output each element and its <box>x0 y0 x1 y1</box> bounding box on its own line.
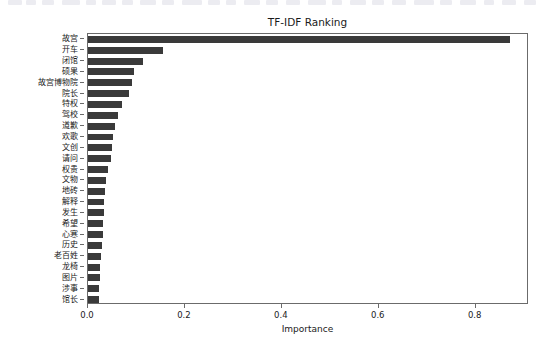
y-tick-mark <box>80 71 84 72</box>
bar <box>88 68 134 75</box>
bar <box>88 90 129 97</box>
y-tick-label: 特权 <box>62 99 78 108</box>
y-tick-label: 历史 <box>62 240 78 249</box>
y-tick-label: 文物 <box>62 175 78 184</box>
y-tick-label: 涉事 <box>62 283 78 292</box>
y-tick-label: 龙椅 <box>62 262 78 271</box>
y-tick-label: 请问 <box>62 153 78 162</box>
y-tick-label: 馆长 <box>62 294 78 303</box>
x-tick-mark <box>87 304 88 308</box>
bar <box>88 264 100 271</box>
y-tick-label: 道歉 <box>62 121 78 130</box>
y-tick-mark <box>80 49 84 50</box>
bar <box>88 47 163 54</box>
bar-row <box>88 144 527 151</box>
y-tick-label: 权贵 <box>62 164 78 173</box>
y-tick-label: 欢歌 <box>62 131 78 140</box>
bar <box>88 274 100 281</box>
bar <box>88 296 99 303</box>
tfidf-bar-chart-figure: TF-IDF Ranking 故宫开车闭馆硕果故宫博物院院长特权驾校道歉欢歌文创… <box>0 0 547 355</box>
y-tick-label: 地砖 <box>62 186 78 195</box>
plot-area <box>87 33 528 304</box>
y-tick-label: 心寒 <box>62 229 78 238</box>
y-tick-mark <box>80 190 84 191</box>
bar <box>88 155 111 162</box>
bar <box>88 101 122 108</box>
y-tick-mark <box>80 93 84 94</box>
x-tick-mark <box>378 304 379 308</box>
bar <box>88 253 101 260</box>
x-tick-mark <box>281 304 282 308</box>
bar <box>88 112 118 119</box>
bar <box>88 144 112 151</box>
y-tick-mark <box>80 60 84 61</box>
y-axis-tick-labels: 故宫开车闭馆硕果故宫博物院院长特权驾校道歉欢歌文创请问权贵文物地砖解释发生希望心… <box>0 33 87 304</box>
bar-row <box>88 242 527 249</box>
y-tick-mark <box>80 125 84 126</box>
bar <box>88 220 103 227</box>
bar <box>88 177 106 184</box>
y-tick-mark <box>80 234 84 235</box>
y-tick-label: 院长 <box>62 88 78 97</box>
bar <box>88 231 103 238</box>
x-tick-label: 0.8 <box>468 310 482 320</box>
bar-row <box>88 220 527 227</box>
y-tick-mark <box>80 158 84 159</box>
y-tick-mark <box>80 277 84 278</box>
bar-row <box>88 209 527 216</box>
y-tick-label: 希望 <box>62 218 78 227</box>
bar <box>88 58 143 65</box>
y-tick-mark <box>80 114 84 115</box>
y-tick-mark <box>80 266 84 267</box>
bar-series <box>88 34 527 303</box>
y-tick-label: 驾校 <box>62 110 78 119</box>
x-axis-title: Importance <box>87 324 528 334</box>
y-tick-mark <box>80 299 84 300</box>
y-tick-mark <box>80 244 84 245</box>
bar-row <box>88 36 527 43</box>
y-tick-label: 文创 <box>62 142 78 151</box>
bar-row <box>88 166 527 173</box>
x-tick-label: 0.0 <box>80 310 94 320</box>
bar-row <box>88 296 527 303</box>
bar-row <box>88 177 527 184</box>
bar-row <box>88 134 527 141</box>
bar-row <box>88 199 527 206</box>
x-tick-mark <box>184 304 185 308</box>
bar <box>88 123 115 130</box>
y-tick-label: 发生 <box>62 207 78 216</box>
y-tick-label: 硕果 <box>62 66 78 75</box>
bar-row <box>88 47 527 54</box>
bar-row <box>88 112 527 119</box>
y-tick-mark <box>80 169 84 170</box>
bar-row <box>88 285 527 292</box>
bar-row <box>88 90 527 97</box>
bar-row <box>88 188 527 195</box>
chart-title: TF-IDF Ranking <box>87 16 528 28</box>
bar-row <box>88 253 527 260</box>
x-tick-mark <box>475 304 476 308</box>
bar-row <box>88 68 527 75</box>
y-tick-mark <box>80 136 84 137</box>
bar-row <box>88 231 527 238</box>
y-tick-mark <box>80 103 84 104</box>
bar <box>88 199 104 206</box>
bar <box>88 285 99 292</box>
y-tick-mark <box>80 38 84 39</box>
y-tick-mark <box>80 223 84 224</box>
y-tick-mark <box>80 147 84 148</box>
x-tick-label: 0.6 <box>371 310 385 320</box>
y-tick-label: 图片 <box>62 272 78 281</box>
bar <box>88 36 510 43</box>
y-tick-label: 故宫博物院 <box>38 77 78 86</box>
bar-row <box>88 264 527 271</box>
bar <box>88 188 105 195</box>
y-tick-mark <box>80 288 84 289</box>
bar-row <box>88 123 527 130</box>
y-tick-mark <box>80 201 84 202</box>
bar <box>88 209 104 216</box>
x-tick-label: 0.2 <box>177 310 191 320</box>
bar-row <box>88 101 527 108</box>
bar-row <box>88 274 527 281</box>
bar <box>88 134 113 141</box>
